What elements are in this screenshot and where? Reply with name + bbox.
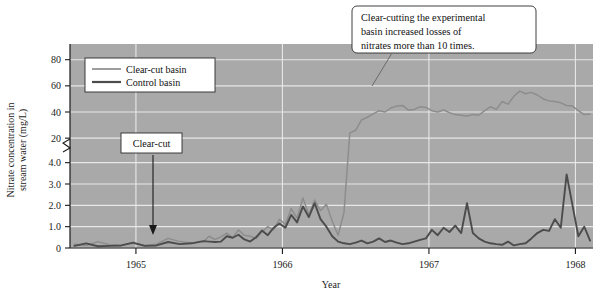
chart-figure: 01.02.03.04.020406080 1965196619671968 N…	[0, 0, 607, 297]
y-axis-title: Nitrate concentration in stream water (m…	[5, 103, 29, 198]
y-tick-label-40: 40	[51, 107, 61, 118]
clear-cut-label: Clear-cut	[133, 138, 171, 149]
x-axis-title: Year	[322, 279, 341, 290]
y-axis-title-line1: Nitrate concentration in	[5, 103, 16, 198]
legend-label-clear-cut-basin: Clear-cut basin	[126, 64, 187, 75]
y-tick-label-80: 80	[51, 54, 61, 65]
y-tick-label-0: 0	[56, 243, 61, 254]
callout-line-1: Clear-cutting the experimental	[361, 12, 485, 23]
nitrate-concentration-line-chart: 01.02.03.04.020406080 1965196619671968 N…	[0, 0, 607, 297]
x-tick-label-1967: 1967	[419, 259, 439, 270]
y-tick-label-3.0: 3.0	[49, 179, 62, 190]
legend: Clear-cut basin Control basin	[85, 58, 215, 92]
y-tick-label-60: 60	[51, 80, 61, 91]
y-axis-title-line2: stream water (mg/L)	[17, 109, 29, 191]
y-tick-label-4.0: 4.0	[49, 157, 62, 168]
legend-label-control-basin: Control basin	[126, 77, 180, 88]
x-tick-label-1968: 1968	[565, 259, 585, 270]
callout-line-2: basin increased losses of	[361, 26, 462, 37]
y-tick-label-20: 20	[51, 133, 61, 144]
x-tick-label-1966: 1966	[272, 259, 292, 270]
x-tick-label-1965: 1965	[126, 259, 146, 270]
y-tick-label-1.0: 1.0	[49, 221, 62, 232]
callout-line-3: nitrates more than 10 times.	[361, 40, 474, 51]
y-tick-label-2.0: 2.0	[49, 200, 62, 211]
